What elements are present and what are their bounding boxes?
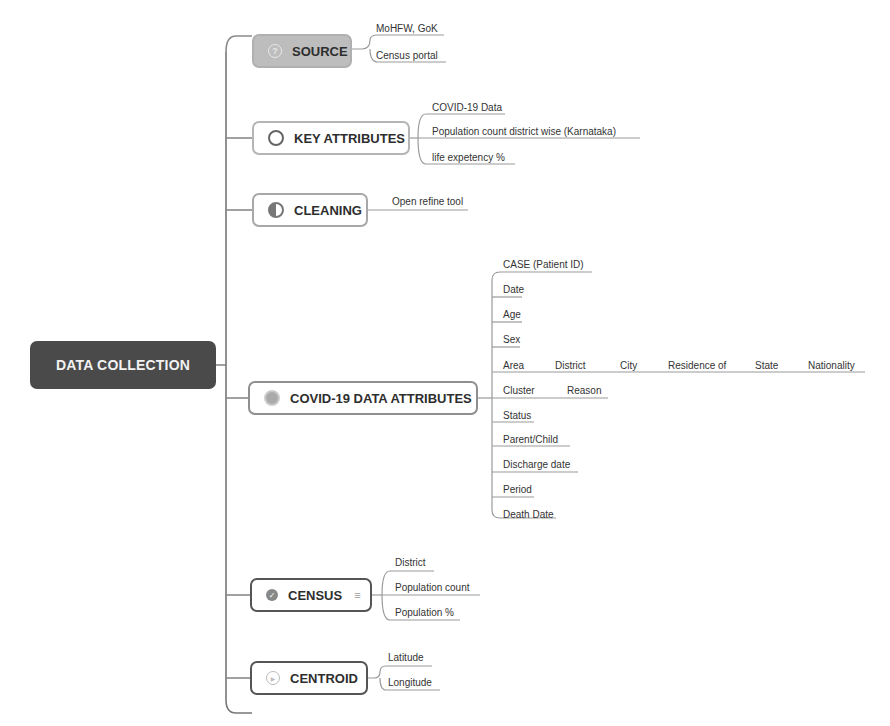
- leaf-area-city[interactable]: City: [620, 360, 637, 371]
- leaf-area-residence[interactable]: Residence of: [668, 360, 726, 371]
- leaf-covid-case[interactable]: CASE (Patient ID): [503, 259, 584, 270]
- branch-label: KEY ATTRIBUTES: [294, 131, 405, 146]
- clock-icon: [268, 130, 284, 146]
- leaf-covid-period[interactable]: Period: [503, 484, 532, 495]
- branch-node-cleaning[interactable]: CLEANING: [252, 193, 368, 227]
- leaf-cleaning-0[interactable]: Open refine tool: [392, 196, 463, 207]
- check-icon: ✓: [266, 589, 278, 601]
- branch-label: CLEANING: [294, 203, 362, 218]
- branch-label: COVID-19 DATA ATTRIBUTES: [290, 391, 472, 406]
- branch-node-source[interactable]: ? SOURCE: [252, 34, 352, 68]
- leaf-cluster-reason[interactable]: Reason: [567, 385, 601, 396]
- leaf-covid-discharge[interactable]: Discharge date: [503, 459, 570, 470]
- leaf-covid-date[interactable]: Date: [503, 284, 524, 295]
- leaf-area-district[interactable]: District: [555, 360, 586, 371]
- leaf-area-nationality[interactable]: Nationality: [808, 360, 855, 371]
- leaf-census-2[interactable]: Population %: [395, 607, 454, 618]
- leaf-key-2[interactable]: life expetency %: [432, 152, 505, 163]
- leaf-centroid-0[interactable]: Latitude: [388, 652, 424, 663]
- leaf-covid-parent-child[interactable]: Parent/Child: [503, 434, 558, 445]
- leaf-source-0[interactable]: MoHFW, GoK: [376, 23, 438, 34]
- notes-icon[interactable]: ≡: [354, 589, 360, 601]
- branch-node-census[interactable]: ✓ CENSUS ≡: [250, 578, 372, 612]
- leaf-key-0[interactable]: COVID-19 Data: [432, 102, 502, 113]
- leaf-covid-cluster[interactable]: Cluster: [503, 385, 535, 396]
- pie-icon: [268, 202, 284, 218]
- leaf-source-1[interactable]: Census portal: [376, 50, 438, 61]
- branch-node-covid-attributes[interactable]: COVID-19 DATA ATTRIBUTES: [248, 381, 478, 415]
- branch-node-centroid[interactable]: ▶ CENTROID: [250, 661, 368, 695]
- root-node-data-collection[interactable]: DATA COLLECTION: [30, 341, 216, 389]
- question-icon: ?: [268, 44, 282, 58]
- play-icon: ▶: [266, 671, 280, 685]
- leaf-area-state[interactable]: State: [755, 360, 778, 371]
- leaf-census-0[interactable]: District: [395, 557, 426, 568]
- leaf-centroid-1[interactable]: Longitude: [388, 677, 432, 688]
- leaf-covid-death[interactable]: Death Date: [503, 509, 554, 520]
- leaf-covid-area[interactable]: Area: [503, 360, 524, 371]
- leaf-key-1[interactable]: Population count district wise (Karnatak…: [432, 126, 616, 137]
- leaf-covid-age[interactable]: Age: [503, 309, 521, 320]
- dot-icon: [264, 390, 280, 406]
- branch-label: CENSUS: [288, 588, 342, 603]
- branch-node-key-attributes[interactable]: KEY ATTRIBUTES: [252, 121, 410, 155]
- branch-label: SOURCE: [292, 44, 348, 59]
- leaf-covid-sex[interactable]: Sex: [503, 334, 520, 345]
- branch-label: CENTROID: [290, 671, 358, 686]
- leaf-census-1[interactable]: Population count: [395, 582, 470, 593]
- leaf-covid-status[interactable]: Status: [503, 410, 531, 421]
